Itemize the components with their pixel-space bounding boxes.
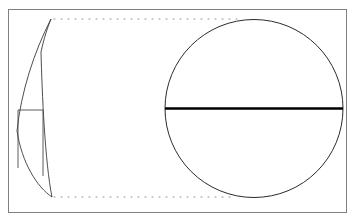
crescent-blade-shape — [17, 19, 52, 197]
geometric-diagram — [0, 0, 358, 222]
figure-canvas: i — [0, 0, 358, 222]
figure-border — [9, 10, 347, 213]
rectangle-handle-shape — [18, 110, 43, 176]
